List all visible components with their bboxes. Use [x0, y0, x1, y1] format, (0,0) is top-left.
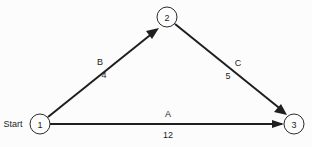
edge-c-group[interactable]	[175, 24, 287, 115]
node-2[interactable]: 2	[157, 7, 177, 27]
network-diagram-svg: 1 2 3 Start B 4 C 5 A 12	[0, 0, 312, 147]
start-label: Start	[3, 119, 23, 129]
node-1-label: 1	[37, 120, 42, 130]
node-3[interactable]: 3	[284, 114, 304, 134]
edge-b-activity-label: B	[97, 57, 103, 67]
node-3-label: 3	[291, 120, 296, 130]
edge-c-duration-label: 5	[225, 71, 230, 81]
edge-a-arrowhead-icon	[272, 120, 284, 128]
edge-b-duration-label: 4	[101, 70, 106, 80]
edge-a-group[interactable]	[50, 120, 284, 128]
node-2-label: 2	[164, 13, 169, 23]
edge-a-duration-label: 12	[163, 130, 173, 140]
node-1[interactable]: 1	[30, 114, 50, 134]
network-diagram-canvas: 1 2 3 Start B 4 C 5 A 12	[0, 0, 312, 147]
edge-c-line	[175, 24, 283, 111]
edge-a-activity-label: A	[165, 109, 171, 119]
edge-c-activity-label: C	[235, 58, 242, 68]
